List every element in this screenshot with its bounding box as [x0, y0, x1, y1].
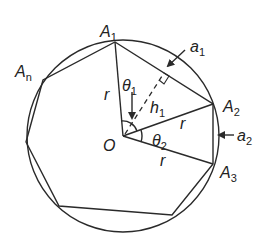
label-h1: h1: [150, 99, 165, 119]
label-r-OA1: r: [104, 86, 110, 103]
label-theta2: θ2: [152, 132, 167, 152]
angle-arc-theta2: [141, 130, 142, 142]
label-A1: A1: [99, 23, 117, 43]
label-An: An: [14, 63, 32, 83]
radius-OA3: [123, 136, 213, 164]
label-a1: a1: [190, 38, 205, 58]
label-A3: A3: [219, 164, 237, 184]
label-r-OA2: r: [180, 115, 186, 132]
radius-OA2: [123, 104, 213, 136]
label-theta1: θ1: [122, 77, 137, 97]
label-O: O: [103, 137, 115, 154]
label-r-OA3: r: [160, 152, 166, 169]
label-A2: A2: [222, 98, 240, 118]
angle-arc-theta1: [121, 121, 137, 131]
label-a2: a2: [237, 127, 252, 147]
polygon-circle-diagram: A1 A2 A3 An O r r r θ1 θ2 h1 a1 a2: [0, 0, 275, 247]
